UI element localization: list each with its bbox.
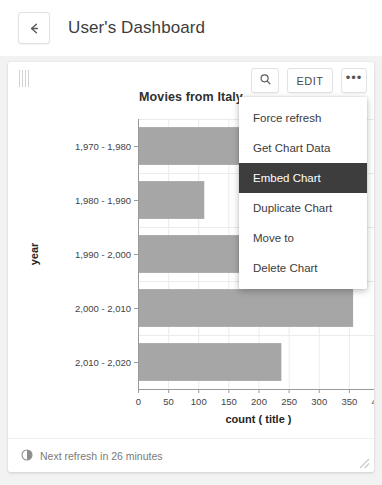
- chart-card: EDIT ••• Movies from Italy 0501001502002…: [8, 62, 374, 472]
- x-tick-label-8: 400: [372, 396, 374, 407]
- more-options-button[interactable]: •••: [341, 68, 367, 93]
- drag-grip-icon[interactable]: [16, 69, 32, 89]
- chart-y-axis-title: year: [28, 242, 40, 265]
- x-tick-label-4: 200: [251, 396, 267, 407]
- page-title: User's Dashboard: [68, 18, 205, 38]
- arrow-left-icon: [27, 21, 42, 36]
- menu-item-force-refresh[interactable]: Force refresh: [239, 103, 367, 133]
- y-tick-label-2: 1,990 - 2,000: [75, 249, 131, 260]
- chart-x-axis-title: count ( title ): [226, 413, 292, 425]
- y-tick-label-1: 1,980 - 1,990: [75, 195, 131, 206]
- y-tick-label-3: 2,000 - 2,010: [75, 303, 131, 314]
- x-tick-label-6: 300: [311, 396, 327, 407]
- y-tick-label-0: 1,970 - 1,980: [75, 141, 131, 152]
- bar-2[interactable]: [138, 235, 242, 273]
- bar-4[interactable]: [138, 343, 281, 381]
- app-header: User's Dashboard: [0, 0, 382, 56]
- bar-3[interactable]: [138, 289, 353, 327]
- menu-item-move-to[interactable]: Move to: [239, 223, 367, 253]
- chart-footer: Next refresh in 26 minutes: [8, 438, 374, 472]
- next-refresh-text: Next refresh in 26 minutes: [40, 450, 163, 462]
- menu-item-delete-chart[interactable]: Delete Chart: [239, 253, 367, 283]
- chart-y-tick-labels: 1,970 - 1,9801,980 - 1,9901,990 - 2,0002…: [75, 141, 131, 368]
- search-button[interactable]: [251, 68, 279, 93]
- menu-item-duplicate-chart[interactable]: Duplicate Chart: [239, 193, 367, 223]
- magnifier-icon: [259, 72, 272, 90]
- y-tick-label-4: 2,010 - 2,020: [75, 357, 131, 368]
- chart-toolbar: EDIT •••: [251, 68, 367, 93]
- chart-x-tick-labels: 050100150200250300350400: [136, 396, 374, 407]
- edit-button[interactable]: EDIT: [287, 68, 333, 93]
- bar-1[interactable]: [138, 181, 204, 219]
- chart-options-menu[interactable]: Force refreshGet Chart DataEmbed ChartDu…: [239, 97, 367, 289]
- x-tick-label-0: 0: [136, 396, 141, 407]
- x-tick-label-5: 250: [281, 396, 297, 407]
- resize-corner-icon[interactable]: [355, 454, 371, 470]
- x-tick-label-3: 150: [221, 396, 237, 407]
- back-button[interactable]: [18, 12, 50, 44]
- x-tick-label-7: 350: [341, 396, 357, 407]
- x-tick-label-1: 50: [163, 396, 174, 407]
- x-tick-label-2: 100: [191, 396, 207, 407]
- menu-item-embed-chart[interactable]: Embed Chart: [239, 163, 367, 193]
- menu-item-get-chart-data[interactable]: Get Chart Data: [239, 133, 367, 163]
- pie-clock-icon: [21, 447, 33, 465]
